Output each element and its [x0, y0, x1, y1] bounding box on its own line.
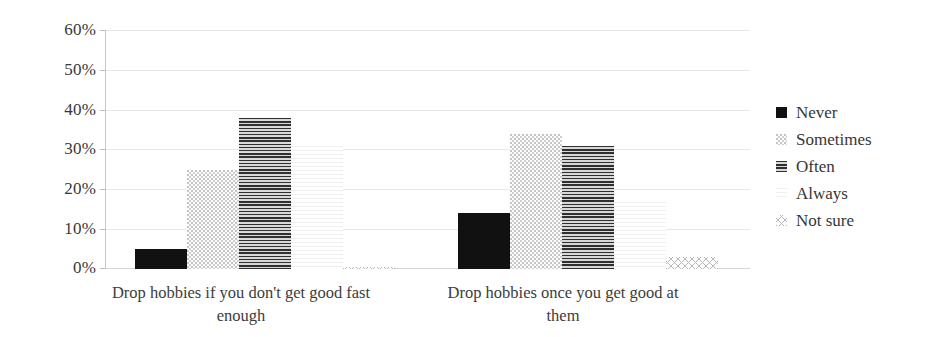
- bar-group1-always: [291, 146, 343, 269]
- bar-group2-never: [458, 213, 510, 269]
- bar-group2-often: [562, 146, 614, 269]
- y-tick-label: 50%: [34, 60, 96, 80]
- legend-item-always[interactable]: Always: [776, 180, 926, 207]
- legend-swatch-icon: [776, 107, 787, 118]
- bar-group1-not-sure: [343, 267, 395, 269]
- legend-label: Often: [796, 157, 835, 177]
- legend-swatch-icon: [776, 161, 787, 172]
- y-tick-label: 10%: [34, 219, 96, 239]
- gridline: [106, 110, 750, 111]
- bar-chart: 60% 50% 40% 30% 20% 10% 0% Drop: [0, 0, 930, 337]
- y-tick-label: 20%: [34, 179, 96, 199]
- plot-area: [106, 30, 750, 269]
- gridline: [106, 30, 750, 31]
- legend-label: Sometimes: [796, 130, 872, 150]
- x-axis-category-label-2: Drop hobbies once you get good at them: [430, 281, 696, 327]
- y-axis: 60% 50% 40% 30% 20% 10% 0%: [34, 20, 96, 278]
- y-tick-label: 40%: [34, 100, 96, 120]
- legend-item-not-sure[interactable]: Not sure: [776, 207, 926, 234]
- bar-group1-never: [135, 249, 187, 269]
- bar-group1-often: [239, 118, 291, 269]
- legend-item-never[interactable]: Never: [776, 99, 926, 126]
- legend-swatch-icon: [776, 134, 787, 145]
- legend-label: Never: [796, 103, 838, 123]
- bar-group2-sometimes: [510, 134, 562, 269]
- x-axis-category-label-1: Drop hobbies if you don't get good fast …: [108, 281, 374, 327]
- bar-group2-not-sure: [666, 257, 718, 269]
- legend-item-sometimes[interactable]: Sometimes: [776, 126, 926, 153]
- legend-label: Always: [796, 184, 848, 204]
- y-tick-label: 0%: [34, 258, 96, 278]
- legend-label: Not sure: [796, 211, 854, 231]
- bar-group1-sometimes: [187, 170, 239, 269]
- bar-group2-always: [614, 202, 666, 269]
- y-tick-label: 60%: [34, 20, 96, 40]
- legend-item-often[interactable]: Often: [776, 153, 926, 180]
- gridline: [106, 149, 750, 150]
- legend: Never Sometimes Often Always Not sure: [776, 99, 926, 234]
- gridline: [106, 70, 750, 71]
- legend-swatch-icon: [776, 188, 787, 199]
- legend-swatch-icon: [776, 215, 787, 226]
- y-tick-label: 30%: [34, 139, 96, 159]
